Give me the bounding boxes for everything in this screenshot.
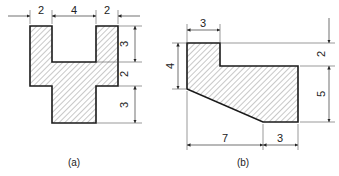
figure-a: 2 4 2 3 2 3 (a) <box>8 4 142 168</box>
dim-label: 3 <box>118 41 130 47</box>
figure-b-dim-right: 2 5 <box>315 18 329 122</box>
figure-b-dim-bottom: 7 3 <box>187 132 298 145</box>
figure-b-shape <box>187 43 298 122</box>
dim-label: 4 <box>164 63 176 69</box>
figure-a-dim-top: 2 4 2 <box>8 4 140 16</box>
figure-b: 3 4 2 5 7 3 (b) <box>164 17 335 168</box>
dim-label: 3 <box>277 132 283 144</box>
dim-label: 4 <box>71 4 77 16</box>
dim-label: 2 <box>104 4 110 16</box>
dim-label: 7 <box>222 132 228 144</box>
dim-label: 2 <box>315 51 327 57</box>
figure-b-dim-top: 3 <box>187 17 220 30</box>
dim-label: 2 <box>118 71 130 77</box>
figure-b-dim-left: 4 <box>164 43 178 89</box>
figure-a-shape <box>30 26 118 123</box>
dim-label: 3 <box>200 17 206 29</box>
dim-label: 5 <box>315 91 327 97</box>
dim-label: 2 <box>38 4 44 16</box>
figure-a-caption: (a) <box>68 157 80 168</box>
figure-a-dim-right: 3 2 3 <box>118 26 135 123</box>
figure-b-caption: (b) <box>237 157 249 168</box>
diagram-canvas: 2 4 2 3 2 3 (a) 3 4 <box>0 0 339 176</box>
dim-label: 3 <box>118 102 130 108</box>
